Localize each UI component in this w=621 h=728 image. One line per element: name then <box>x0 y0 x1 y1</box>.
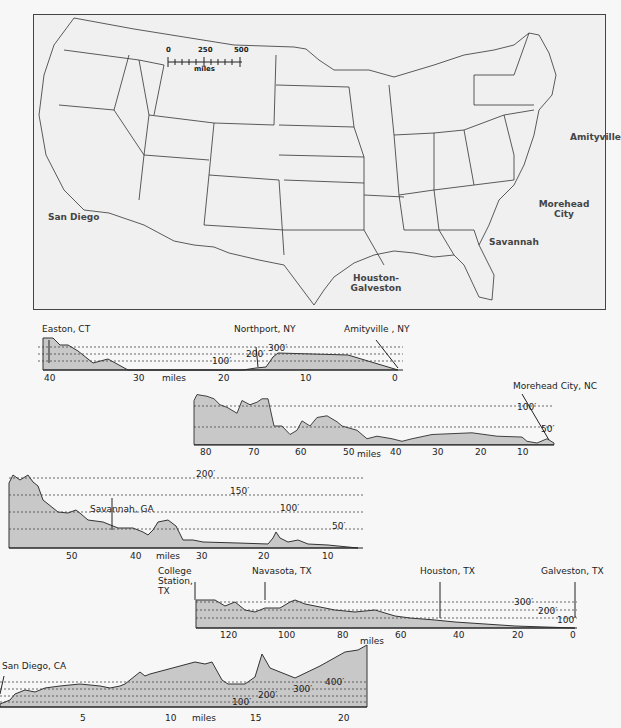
profile4-tick: 120 <box>220 630 237 640</box>
profile2-tick: 50 <box>343 447 354 457</box>
map-label-houston-galveston: Houston-Galveston <box>344 273 408 293</box>
profile1-contour-300: 300′ <box>268 343 287 353</box>
profile1-tick: 10 <box>300 373 311 383</box>
profile-morehead-city <box>192 392 562 446</box>
profile2-tick: 70 <box>248 447 259 457</box>
profile3-tick: 40 <box>130 551 141 561</box>
profile2-tick: 80 <box>200 447 211 457</box>
profile2-axis-unit: miles <box>357 449 381 459</box>
map-label-savannah: Savannah <box>489 237 539 247</box>
scale-label-250: 250 <box>198 46 213 54</box>
profile5-tick: 5 <box>80 713 86 723</box>
profile3-tick: 50 <box>66 551 77 561</box>
profile5-tick: 15 <box>250 713 261 723</box>
profile-savannah <box>8 470 368 550</box>
profile5-contour-100: 100′ <box>232 697 251 707</box>
profile4-tick: 100 <box>278 630 295 640</box>
profile4-tick: 40 <box>453 630 464 640</box>
profile2-tick: 10 <box>517 447 528 457</box>
profile3-contour-50: 50′ <box>332 521 346 531</box>
profile4-contour-200: 200′ <box>538 606 557 616</box>
profile3-axis-unit: miles <box>156 551 180 561</box>
profile3-contour-100: 100′ <box>280 503 299 513</box>
profile1-start-label: Easton, CT <box>42 324 90 334</box>
profile4-mid1-label: Navasota, TX <box>252 566 312 576</box>
profile3-tick: 30 <box>196 551 207 561</box>
profile2-tick: 30 <box>432 447 443 457</box>
profile2-contour-50: 50′ <box>541 424 555 434</box>
profile1-tick: 30 <box>133 373 144 383</box>
profile1-tick: 20 <box>218 373 229 383</box>
profile4-contour-300: 300′ <box>514 597 533 607</box>
profile3-contour-150: 150′ <box>230 486 249 496</box>
profile5-tick: 10 <box>165 713 176 723</box>
profile4-mid2-label: Houston, TX <box>420 566 475 576</box>
profile3-tick: 10 <box>322 551 333 561</box>
profile4-end-label: Galveston, TX <box>541 566 604 576</box>
profile2-tick: 20 <box>475 447 486 457</box>
profile3-contour-200: 200′ <box>196 469 215 479</box>
profile3-tick: 20 <box>258 551 269 561</box>
profile1-contour-100: 100′ <box>212 356 231 366</box>
profile5-contour-400: 400′ <box>325 677 344 687</box>
scale-label-0: 0 <box>166 46 171 54</box>
profile1-tick: 40 <box>44 373 55 383</box>
profile4-tick: 20 <box>512 630 523 640</box>
profile1-contour-200: 200′ <box>246 349 265 359</box>
profile4-tick: 80 <box>337 630 348 640</box>
profile4-start-label: College Station, TX <box>158 566 203 596</box>
profile4-tick: 60 <box>395 630 406 640</box>
map-label-san-diego: San Diego <box>48 212 99 222</box>
profile3-mid-label: Savannah, GA <box>90 504 154 514</box>
profile2-tick: 40 <box>390 447 401 457</box>
profile-easton-amityville <box>38 335 408 373</box>
us-states-outline <box>34 15 605 309</box>
profile2-end-label: Morehead City, NC <box>513 381 597 391</box>
profile5-tick: 20 <box>338 713 349 723</box>
map-label-amityville: Amityville <box>570 132 621 142</box>
profile5-contour-300: 300′ <box>293 684 312 694</box>
profile5-contour-200: 200′ <box>258 690 277 700</box>
us-map: 0 250 500 miles Amityville Morehead City… <box>33 14 606 310</box>
profile1-end-label: Amityville , NY <box>344 324 409 334</box>
profile2-tick: 60 <box>295 447 306 457</box>
profile2-contour-100: 100′ <box>517 402 536 412</box>
profile4-contour-100: 100′ <box>557 615 576 625</box>
scale-unit: miles <box>194 65 215 73</box>
profile1-axis-unit: miles <box>162 373 186 383</box>
profile5-start-label: San Diego, CA <box>2 661 66 671</box>
profile1-tick: 0 <box>392 373 398 383</box>
profile4-tick: 0 <box>570 630 576 640</box>
scale-label-500: 500 <box>234 46 249 54</box>
profile5-axis-unit: miles <box>192 713 216 723</box>
map-label-morehead-city: Morehead City <box>534 199 594 219</box>
profile1-mid-label: Northport, NY <box>234 324 296 334</box>
profile-san-diego <box>0 642 372 712</box>
